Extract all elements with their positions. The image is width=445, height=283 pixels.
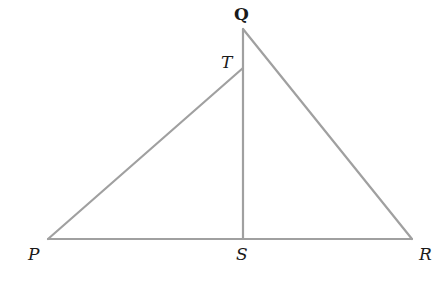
diagram-svg: Q T P S R: [0, 0, 445, 283]
segment-PT: [48, 68, 243, 239]
segment-QR: [243, 29, 412, 239]
label-P: P: [27, 244, 40, 264]
label-T: T: [221, 52, 234, 72]
label-R: R: [418, 244, 432, 264]
label-S: S: [236, 244, 248, 264]
geometry-diagram: Q T P S R: [0, 0, 445, 283]
label-Q: Q: [234, 4, 249, 24]
